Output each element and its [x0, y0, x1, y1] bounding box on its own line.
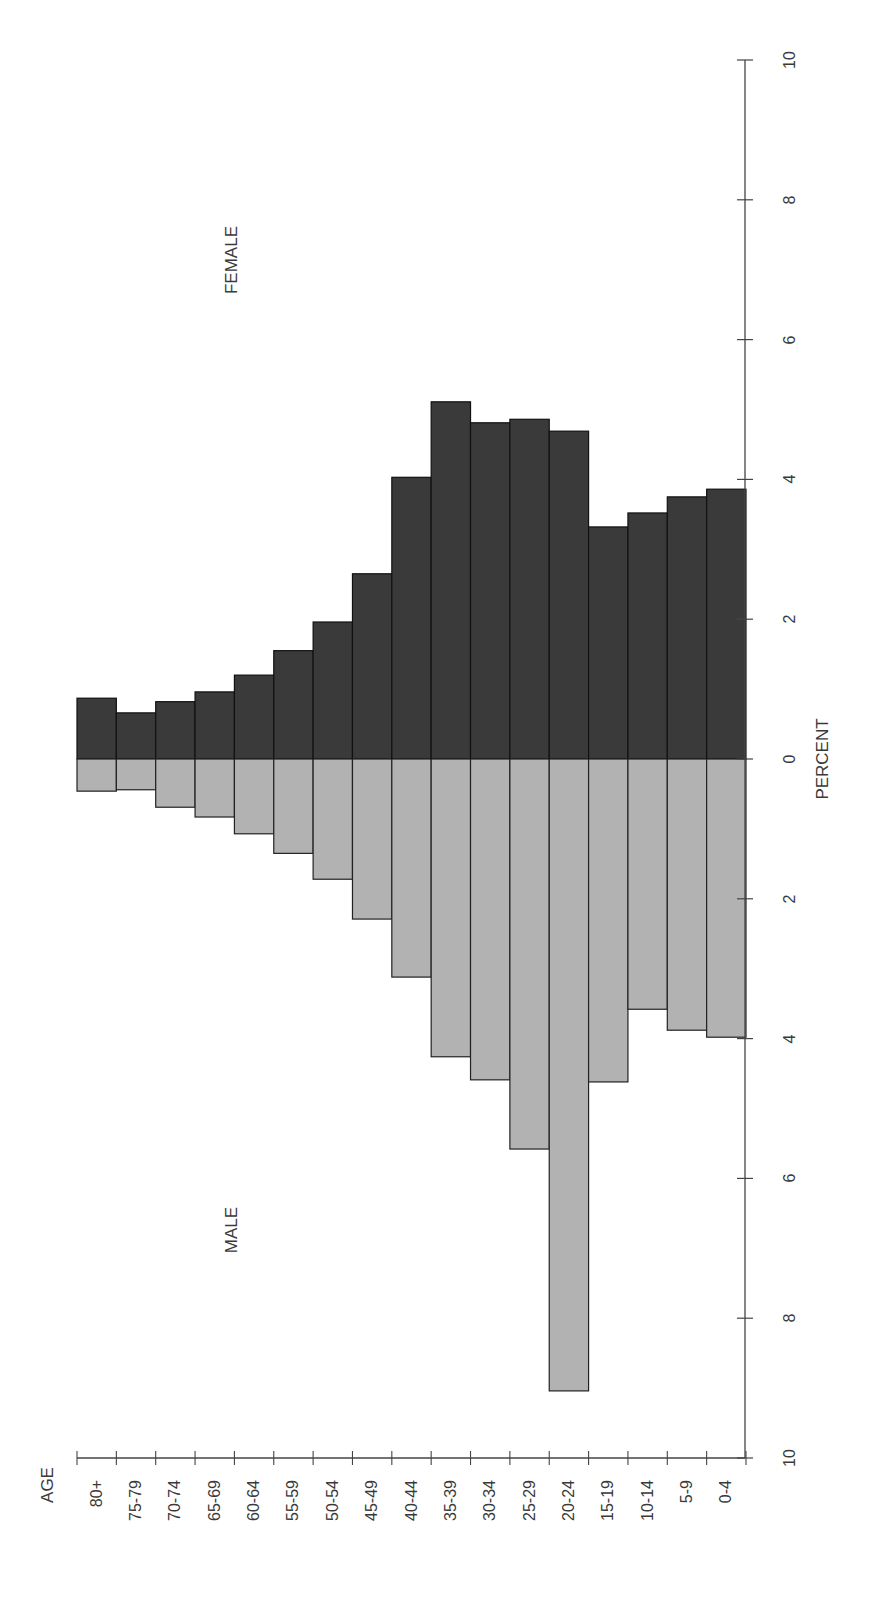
female-bar: [392, 477, 431, 759]
female-bar: [195, 692, 234, 759]
age-tick-label: 15-19: [599, 1480, 617, 1521]
male-bar: [707, 759, 746, 1037]
male-bar: [392, 759, 431, 977]
male-bar: [156, 759, 195, 807]
age-tick-label: 25-29: [520, 1480, 538, 1521]
female-bar: [116, 713, 155, 759]
male-bar: [628, 759, 667, 1009]
male-bar: [274, 759, 313, 853]
male-bar: [195, 759, 234, 817]
percent-axis-title: PERCENT: [813, 718, 833, 799]
female-bar: [313, 622, 352, 759]
female-bar: [510, 419, 549, 759]
male-bar: [471, 759, 510, 1080]
female-bar: [549, 431, 588, 759]
age-tick-label: 60-64: [245, 1480, 263, 1521]
male-bar: [589, 759, 628, 1082]
age-tick-label: 55-59: [284, 1480, 302, 1521]
percent-tick-label: 6: [781, 335, 799, 344]
male-bar: [549, 759, 588, 1391]
female-bar: [589, 527, 628, 759]
age-tick-label: 70-74: [166, 1480, 184, 1521]
age-tick-label: 40-44: [402, 1480, 420, 1521]
age-tick-label: 20-24: [560, 1480, 578, 1521]
male-bar: [667, 759, 706, 1030]
male-bar: [77, 759, 116, 791]
percent-tick-label: 2: [781, 894, 799, 903]
female-bar: [431, 402, 470, 759]
age-tick-label: 10-14: [639, 1480, 657, 1521]
percent-tick-label: 8: [781, 1314, 799, 1323]
female-bar: [471, 423, 510, 759]
percent-tick-label: 0: [781, 755, 799, 764]
male-bar: [313, 759, 352, 879]
percent-tick-label: 4: [781, 475, 799, 484]
age-tick-label: 65-69: [206, 1480, 224, 1521]
chart-canvas: [0, 0, 874, 1610]
male-bar: [234, 759, 273, 834]
male-bar: [510, 759, 549, 1149]
female-bar: [667, 497, 706, 759]
male-label: MALE: [222, 1207, 242, 1253]
age-tick-label: 75-79: [127, 1480, 145, 1521]
female-bar: [707, 489, 746, 759]
female-bar: [234, 675, 273, 759]
percent-tick-label: 10: [781, 1449, 799, 1467]
age-axis-title: AGE: [38, 1467, 58, 1503]
percent-tick-label: 6: [781, 1174, 799, 1183]
age-tick-label: 0-4: [717, 1480, 735, 1503]
percent-tick-label: 8: [781, 195, 799, 204]
age-tick-label: 50-54: [324, 1480, 342, 1521]
female-bar: [77, 698, 116, 759]
percent-tick-label: 4: [781, 1034, 799, 1043]
age-tick-label: 35-39: [442, 1480, 460, 1521]
female-bar: [156, 702, 195, 759]
female-label: FEMALE: [222, 226, 242, 294]
age-tick-label: 30-34: [481, 1480, 499, 1521]
age-tick-label: 80+: [88, 1480, 106, 1507]
male-bar: [431, 759, 470, 1057]
percent-tick-label: 2: [781, 615, 799, 624]
female-bar: [352, 574, 391, 759]
female-bar: [628, 513, 667, 759]
population-pyramid-chart: FEMALE MALE PERCENT AGE 80+75-7970-7465-…: [0, 0, 874, 1610]
percent-tick-label: 10: [781, 51, 799, 69]
age-tick-label: 45-49: [363, 1480, 381, 1521]
bars-group: [77, 402, 746, 1391]
male-bar: [352, 759, 391, 919]
age-tick-label: 5-9: [678, 1480, 696, 1503]
female-bar: [274, 651, 313, 759]
male-bar: [116, 759, 155, 790]
